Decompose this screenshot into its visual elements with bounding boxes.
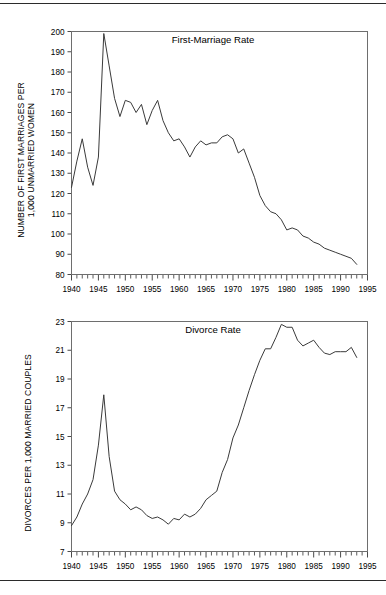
first-marriage-rate-plot: NUMBER OF FIRST MARRIAGES PER 1,000 UNMA… (0, 10, 386, 295)
x-tick-label: 1950 (116, 285, 135, 294)
x-tick-label: 1970 (224, 285, 243, 294)
x-tick-label: 1970 (224, 562, 243, 571)
x-tick-label: 1980 (278, 285, 297, 294)
x-tick-label: 1965 (197, 562, 216, 571)
x-tick-label: 1990 (331, 562, 350, 571)
x-axis-ticks: 1940194519501955196019651970197519801985… (62, 552, 377, 571)
y-tick-label: 110 (51, 210, 64, 219)
top-divider-rule (0, 3, 386, 4)
y-tick-label: 190 (51, 48, 65, 57)
y-axis-title-line2: 1,000 UNMARRIED WOMEN (26, 103, 36, 217)
figure-page: NUMBER OF FIRST MARRIAGES PER 1,000 UNMA… (0, 0, 386, 595)
y-axis-title: DIVORCES PER 1,000 MARRIED COUPLES (23, 354, 33, 532)
bottom-divider-rule (0, 580, 386, 581)
y-tick-label: 17 (55, 404, 65, 413)
y-tick-label: 140 (51, 149, 65, 158)
y-tick-label: 9 (60, 519, 65, 528)
y-tick-label: 90 (55, 250, 65, 259)
y-tick-label: 11 (56, 490, 65, 499)
y-axis-title-line1: NUMBER OF FIRST MARRIAGES PER (16, 82, 26, 238)
x-tick-label: 1955 (143, 285, 162, 294)
x-tick-label: 1975 (251, 285, 270, 294)
plot-frame (72, 32, 368, 275)
x-tick-label: 1985 (305, 285, 324, 294)
x-axis-ticks: 1940194519501955196019651970197519801985… (62, 275, 377, 294)
chart-first-marriage-rate: NUMBER OF FIRST MARRIAGES PER 1,000 UNMA… (0, 10, 386, 295)
x-tick-label: 1995 (358, 562, 377, 571)
chart-divorce-rate: DIVORCES PER 1,000 MARRIED COUPLES Divor… (0, 303, 386, 578)
x-tick-label: 1985 (305, 562, 324, 571)
x-tick-label: 1980 (278, 562, 297, 571)
y-tick-label: 21 (55, 346, 65, 355)
y-tick-label: 15 (55, 433, 65, 442)
y-tick-label: 170 (51, 88, 65, 97)
x-tick-label: 1965 (197, 285, 216, 294)
y-axis-ticks: 7911131517192123 (55, 318, 71, 557)
y-tick-label: 7 (60, 548, 65, 557)
x-tick-label: 1945 (89, 285, 108, 294)
plot-frame (72, 322, 368, 552)
y-tick-label: 13 (55, 461, 65, 470)
y-axis-title-group: NUMBER OF FIRST MARRIAGES PER 1,000 UNMA… (16, 82, 36, 238)
chart-title: Divorce Rate (185, 324, 240, 335)
x-tick-label: 1960 (170, 285, 189, 294)
y-tick-label: 160 (51, 109, 65, 118)
x-tick-label: 1995 (358, 285, 377, 294)
x-tick-label: 1975 (251, 562, 270, 571)
x-tick-label: 1945 (89, 562, 108, 571)
y-tick-label: 180 (51, 68, 65, 77)
y-tick-label: 130 (51, 169, 65, 178)
x-tick-label: 1950 (116, 562, 135, 571)
x-tick-label: 1990 (331, 285, 350, 294)
y-tick-label: 120 (51, 190, 65, 199)
divorce-rate-plot: DIVORCES PER 1,000 MARRIED COUPLES Divor… (0, 303, 386, 578)
data-series-line (72, 324, 357, 525)
y-tick-label: 150 (51, 129, 65, 138)
x-tick-label: 1955 (143, 562, 162, 571)
y-axis-title-group: DIVORCES PER 1,000 MARRIED COUPLES (23, 354, 33, 532)
x-tick-label: 1960 (170, 562, 189, 571)
y-tick-label: 100 (51, 230, 65, 239)
x-tick-label: 1940 (62, 562, 81, 571)
chart-title: First-Marriage Rate (172, 34, 255, 45)
y-tick-label: 80 (55, 271, 65, 280)
y-axis-ticks: 8090100110120130140150160170180190200 (51, 28, 72, 280)
x-tick-label: 1940 (62, 285, 81, 294)
y-tick-label: 19 (55, 375, 65, 384)
y-tick-label: 200 (51, 28, 65, 37)
data-series-line (72, 34, 357, 265)
y-tick-label: 23 (55, 318, 65, 327)
